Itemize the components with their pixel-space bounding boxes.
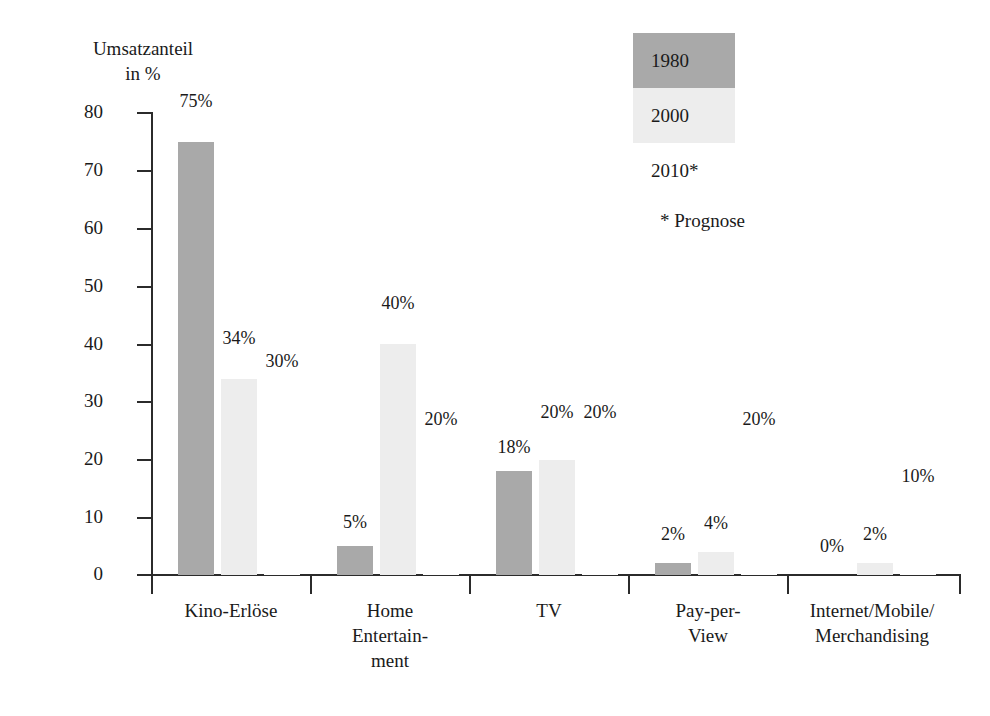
x-tick-mark: [628, 576, 630, 594]
bar-2000-tv[interactable]: [539, 460, 575, 575]
value-label-1980-kino-erloese: 75%: [166, 91, 226, 112]
bar-1980-pay-per-view[interactable]: [655, 563, 691, 575]
legend-label-2010: 2010*: [651, 160, 699, 182]
bar-2010-kino-erloese[interactable]: [264, 402, 300, 575]
legend-footnote: * Prognose: [660, 210, 745, 232]
bar-2000-home-entertainment[interactable]: [380, 344, 416, 575]
legend-label-2000: 2000: [651, 105, 689, 127]
x-category-label-kino-erloese: Kino-Erlöse: [151, 598, 311, 623]
x-category-label-internet-mobile-merchandising: Internet/Mobile/ Merchandising: [784, 598, 960, 648]
x-tick-mark: [310, 576, 312, 594]
value-label-2000-kino-erloese: 34%: [209, 328, 269, 349]
x-tick-mark: [151, 576, 153, 594]
x-category-label-home-entertainment: Home Entertain- ment: [310, 598, 470, 673]
x-tick-mark: [959, 576, 961, 594]
value-label-2010-kino-erloese: 30%: [252, 351, 312, 372]
bar-2000-pay-per-view[interactable]: [698, 552, 734, 575]
bar-2010-internet-mobile-merchandising[interactable]: [900, 517, 936, 575]
bar-1980-tv[interactable]: [496, 471, 532, 575]
value-label-2010-home-entertainment: 20%: [411, 409, 471, 430]
x-category-label-pay-per-view: Pay-per- View: [628, 598, 788, 648]
bar-2000-internet-mobile-merchandising[interactable]: [857, 563, 893, 575]
bar-2010-home-entertainment[interactable]: [423, 460, 459, 575]
x-category-label-tv: TV: [469, 598, 629, 623]
x-tick-mark: [787, 576, 789, 594]
bar-2010-pay-per-view[interactable]: [741, 460, 777, 575]
value-label-2010-internet-mobile-merchandising: 10%: [888, 466, 948, 487]
bar-2000-kino-erloese[interactable]: [221, 379, 257, 575]
value-label-1980-tv: 18%: [484, 437, 544, 458]
value-label-1980-home-entertainment: 5%: [325, 512, 385, 533]
bar-chart: Umsatzanteil in % 80 70 60 50 40 30 20 1…: [0, 0, 990, 716]
bars-layer: [0, 0, 990, 575]
value-label-2010-tv: 20%: [570, 402, 630, 423]
legend-label-1980: 1980: [651, 50, 689, 72]
value-label-2000-home-entertainment: 40%: [368, 293, 428, 314]
value-label-2010-pay-per-view: 20%: [729, 409, 789, 430]
value-label-2000-pay-per-view: 4%: [686, 513, 746, 534]
x-tick-mark: [469, 576, 471, 594]
bar-2010-tv[interactable]: [582, 460, 618, 575]
bar-1980-kino-erloese[interactable]: [178, 142, 214, 575]
value-label-2000-internet-mobile-merchandising: 2%: [845, 524, 905, 545]
bar-1980-home-entertainment[interactable]: [337, 546, 373, 575]
